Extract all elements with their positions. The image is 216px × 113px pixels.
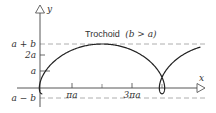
trochoid-curve — [39, 44, 200, 94]
title-condition: (b > a) — [125, 29, 157, 39]
y-tick-label-a-plus-b: a + b — [12, 39, 37, 49]
trochoid-diagram: y x a + b 2a a a − b πa 3πa Trochoid (b … — [0, 0, 216, 113]
x-tick-label-3pi-a: 3πa — [123, 90, 140, 100]
x-axis-arrow-icon — [197, 84, 205, 93]
x-tick-label-pi-a: πa — [65, 90, 77, 100]
y-tick-label-a-minus-b: a − b — [12, 93, 37, 103]
x-axis-label: x — [199, 73, 204, 83]
title-text: Trochoid — [85, 29, 120, 39]
y-tick-label-a: a — [31, 66, 36, 76]
y-tick-label-2a: 2a — [24, 50, 36, 60]
diagram-title: Trochoid (b > a) — [85, 29, 157, 39]
y-axis-arrow-icon — [36, 5, 45, 13]
y-axis-label: y — [46, 4, 53, 14]
